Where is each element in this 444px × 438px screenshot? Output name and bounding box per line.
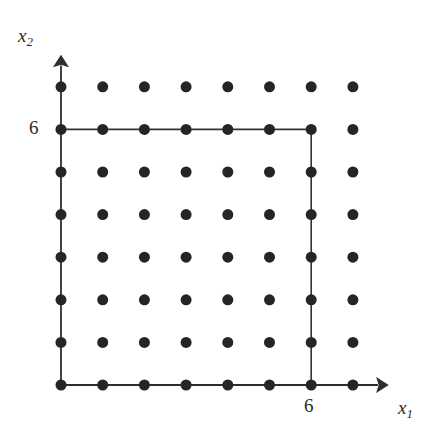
- lattice-point: [139, 124, 150, 135]
- x-axis-tick-label-6: 6: [304, 396, 314, 415]
- lattice-point: [306, 167, 317, 178]
- lattice-point: [56, 380, 67, 391]
- lattice-point: [222, 167, 233, 178]
- y-axis-label: x2: [18, 26, 33, 45]
- lattice-point: [347, 294, 358, 305]
- lattice-point: [264, 209, 275, 220]
- lattice-point: [97, 124, 108, 135]
- lattice-point: [139, 380, 150, 391]
- lattice-point: [306, 294, 317, 305]
- lattice-point: [306, 81, 317, 92]
- lattice-point: [139, 294, 150, 305]
- lattice-point: [181, 337, 192, 348]
- lattice-point: [306, 380, 317, 391]
- y-axis-tick-label-6: 6: [29, 118, 39, 137]
- lattice-point: [181, 209, 192, 220]
- lattice-point: [347, 337, 358, 348]
- lattice-point: [306, 252, 317, 263]
- lattice-point: [181, 252, 192, 263]
- lattice-point: [56, 209, 67, 220]
- lattice-point: [347, 81, 358, 92]
- lattice-point: [347, 124, 358, 135]
- lattice-point: [56, 337, 67, 348]
- lattice-point: [347, 380, 358, 391]
- lattice-point: [181, 124, 192, 135]
- lattice-point: [181, 167, 192, 178]
- lattice-point: [264, 337, 275, 348]
- lattice-point: [139, 209, 150, 220]
- y-axis-label-subscript: 2: [26, 34, 32, 49]
- lattice-point: [97, 167, 108, 178]
- lattice-point: [139, 81, 150, 92]
- lattice-point: [139, 252, 150, 263]
- lattice-point: [222, 337, 233, 348]
- lattice-points-group: [56, 81, 359, 390]
- lattice-point: [347, 167, 358, 178]
- lattice-point: [264, 81, 275, 92]
- lattice-point: [97, 294, 108, 305]
- lattice-point: [264, 167, 275, 178]
- lattice-point: [306, 209, 317, 220]
- x-axis-label-subscript: 1: [406, 406, 412, 421]
- lattice-point: [222, 252, 233, 263]
- lattice-point: [97, 252, 108, 263]
- lattice-point: [264, 124, 275, 135]
- lattice-point: [97, 380, 108, 391]
- axes-group: [61, 66, 378, 386]
- lattice-point: [56, 167, 67, 178]
- lattice-point: [56, 124, 67, 135]
- x-axis-label: x1: [398, 398, 413, 417]
- plot-canvas: [0, 0, 444, 438]
- lattice-point: [264, 294, 275, 305]
- lattice-point: [347, 209, 358, 220]
- lattice-point: [181, 81, 192, 92]
- lattice-point: [222, 209, 233, 220]
- lattice-point: [56, 81, 67, 92]
- lattice-point: [139, 167, 150, 178]
- lattice-point: [181, 294, 192, 305]
- lattice-point: [264, 380, 275, 391]
- lattice-point: [264, 252, 275, 263]
- lattice-point: [56, 294, 67, 305]
- lattice-point: [222, 124, 233, 135]
- lattice-point: [56, 252, 67, 263]
- lattice-point: [222, 380, 233, 391]
- lattice-point: [306, 337, 317, 348]
- lattice-point: [97, 209, 108, 220]
- lattice-point: [97, 81, 108, 92]
- lattice-point: [222, 294, 233, 305]
- lattice-point: [181, 380, 192, 391]
- lattice-plot-figure: x2 x1 6 6: [0, 0, 444, 438]
- lattice-point: [139, 337, 150, 348]
- lattice-point: [97, 337, 108, 348]
- lattice-point: [222, 81, 233, 92]
- lattice-point: [306, 124, 317, 135]
- lattice-point: [347, 252, 358, 263]
